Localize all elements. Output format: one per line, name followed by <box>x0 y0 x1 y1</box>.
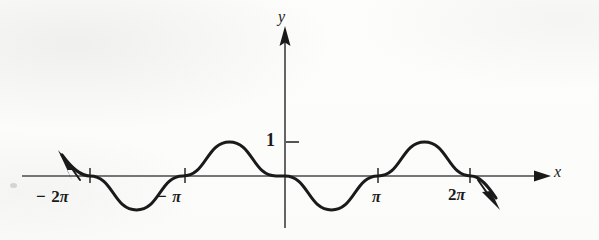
sine-curve-plot <box>0 0 599 240</box>
y-tick-label-one: 1 <box>266 131 275 149</box>
pi-symbol-pi: π <box>372 188 381 205</box>
digit-two-two-pi: 2 <box>448 185 457 204</box>
x-tick-label-neg-pi: − π <box>157 188 181 205</box>
x-tick-label-neg-two-pi: − 2π <box>36 188 69 205</box>
x-axis-arrowhead-right-arrow-icon <box>534 171 551 182</box>
minus-sign-neg-pi: − <box>157 187 168 206</box>
x-tick-label-pi: π <box>372 188 381 205</box>
x-tick-label-two-pi: 2π <box>448 186 465 203</box>
pi-symbol-neg-pi: π <box>172 188 181 205</box>
y-axis-label: y <box>278 9 285 25</box>
digit-two-neg-two-pi: 2 <box>51 187 60 206</box>
minus-sign-neg-two-pi: − <box>36 187 47 206</box>
pi-symbol-two-pi: π <box>457 186 466 203</box>
x-axis-label: x <box>554 164 561 180</box>
figure-container: y x 1 − 2π − π π 2π <box>0 0 599 240</box>
pi-symbol-neg-two-pi: π <box>60 188 69 205</box>
